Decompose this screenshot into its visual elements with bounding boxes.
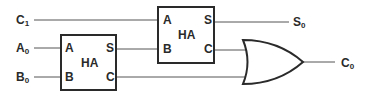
ha2-pin-a: A — [163, 13, 172, 27]
ha2-label: HA — [178, 28, 196, 42]
input-label-a0: A0 — [16, 41, 30, 56]
half-adder-1: A B HA S C — [61, 35, 116, 90]
ha1-pin-c: C — [106, 70, 115, 84]
input-label-c1: C1 — [16, 13, 30, 28]
svg-text:C0: C0 — [341, 56, 355, 71]
ha2-pin-c: C — [204, 42, 213, 56]
half-adder-2: A B HA S C — [158, 7, 214, 63]
ha2-pin-b: B — [163, 42, 172, 56]
ha1-pin-a: A — [65, 41, 74, 55]
ha1-pin-s: S — [106, 41, 114, 55]
full-adder-diagram: C1 A0 B0 A B HA S C A B HA S C S0 C0 — [0, 0, 367, 103]
output-label-c0: C0 — [341, 56, 355, 71]
svg-text:B0: B0 — [16, 70, 30, 85]
ha1-label: HA — [81, 56, 99, 70]
or-gate-icon — [243, 40, 303, 84]
svg-text:A0: A0 — [16, 41, 30, 56]
output-label-s0: S0 — [293, 15, 306, 30]
svg-text:S0: S0 — [293, 15, 306, 30]
ha1-pin-b: B — [65, 70, 74, 84]
input-label-b0: B0 — [16, 70, 30, 85]
ha2-pin-s: S — [204, 13, 212, 27]
svg-text:C1: C1 — [16, 13, 30, 28]
